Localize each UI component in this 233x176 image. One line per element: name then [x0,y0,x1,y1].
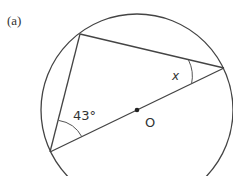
part-label: (a) [7,13,21,28]
center-point [135,108,140,113]
angle-label-43: 43° [73,108,96,123]
circle [41,14,233,176]
chord-left [50,34,80,152]
angle-label-x: x [171,69,180,83]
center-label: O [145,115,155,130]
circle-theorem-diagram: (a) O 43° x [0,0,233,176]
angle-arc-x [189,60,193,84]
